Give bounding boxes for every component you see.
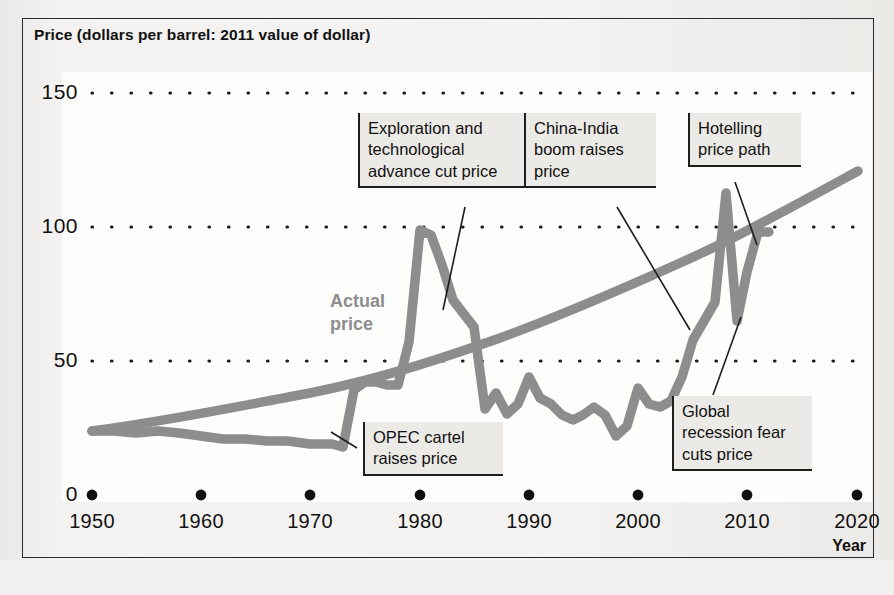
tick-dot-1960 (196, 490, 207, 501)
annotation-exploration: Exploration and technological advance cu… (358, 113, 540, 188)
annotation-opec: OPEC cartel raises price (363, 422, 503, 476)
figure-container: Price (dollars per barrel: 2011 value of… (0, 0, 894, 595)
y-tick-label-50: 50 (18, 348, 78, 372)
chart-svg (0, 0, 894, 595)
x-tick-label-2020: 2020 (817, 510, 894, 533)
tick-dot-2000 (633, 490, 644, 501)
x-tick-label-1980: 1980 (380, 510, 460, 533)
tick-dot-1950 (87, 490, 98, 501)
y-tick-label-0: 0 (18, 482, 78, 506)
y-tick-label-100: 100 (18, 214, 78, 238)
x-axis-title: Year (832, 537, 866, 555)
x-axis-tick-dots (87, 490, 863, 501)
annotation-china-india: China-India boom raises price (524, 113, 656, 188)
y-tick-label-150: 150 (18, 80, 78, 104)
tick-dot-1990 (524, 490, 535, 501)
tick-dot-2020 (852, 490, 863, 501)
leader-line-recession (713, 317, 741, 395)
tick-dot-1980 (415, 490, 426, 501)
tick-dot-2010 (742, 490, 753, 501)
tick-dot-1970 (305, 490, 316, 501)
x-tick-label-2000: 2000 (598, 510, 678, 533)
x-tick-label-1960: 1960 (161, 510, 241, 533)
series-label-actual-price: Actual price (330, 290, 385, 335)
x-tick-label-2010: 2010 (707, 510, 787, 533)
x-tick-label-1990: 1990 (489, 510, 569, 533)
annotation-hotelling: Hotelling price path (688, 113, 801, 167)
x-tick-label-1970: 1970 (270, 510, 350, 533)
x-tick-label-1950: 1950 (52, 510, 132, 533)
series-actual-price (92, 193, 769, 447)
annotation-recession: Global recession fear cuts price (672, 396, 812, 471)
